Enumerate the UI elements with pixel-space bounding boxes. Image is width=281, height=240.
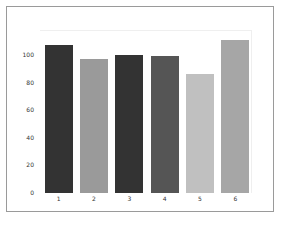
y-tick-label: 40 [14,134,34,141]
y-tick-label: 0 [14,189,34,196]
plot-area [40,30,252,193]
x-tick-label: 6 [229,195,241,202]
y-tick-label: 80 [14,79,34,86]
plot-border-right [251,30,252,193]
x-tick-label: 4 [159,195,171,202]
y-tick-label: 20 [14,161,34,168]
bar-3 [115,55,143,193]
bar-5 [186,74,214,193]
bar-4 [151,56,179,193]
x-tick-label: 3 [123,195,135,202]
bar-2 [80,59,108,193]
x-tick-label: 1 [53,195,65,202]
x-tick-label: 5 [194,195,206,202]
bar-6 [221,40,249,193]
y-tick-label: 100 [14,51,34,58]
x-tick-label: 2 [88,195,100,202]
bar-1 [45,45,73,193]
y-tick-label: 60 [14,106,34,113]
plot-border-top [40,30,252,31]
